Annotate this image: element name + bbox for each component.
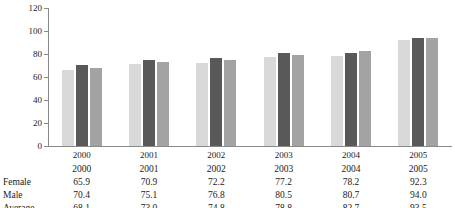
bar-female-2000 (62, 70, 74, 146)
chart-figure: 020406080100120 200020012002200320042005… (0, 0, 455, 208)
bar-male-2005 (412, 38, 424, 146)
bar-average-2004 (359, 51, 371, 146)
table-row-average-cell: 93.5 (388, 202, 448, 208)
bar-average-2003 (292, 55, 304, 146)
table-row-female-cell: 72.2 (186, 176, 246, 189)
table-row-average-label: Average (3, 202, 34, 208)
table-row-average-cell: 82.7 (321, 202, 381, 208)
plot-area: 020406080100120 (0, 0, 455, 150)
table-row-male-cell: 80.5 (254, 189, 314, 202)
table-row-female-cell: 65.9 (52, 176, 112, 189)
table-header-row-cell: 2001 (119, 163, 179, 176)
bar-male-2004 (345, 53, 357, 146)
table-header-row-cell: 2004 (321, 163, 381, 176)
table-row-female: Female65.970.972.277.278.292.3 (0, 176, 455, 189)
table-row-female-cell: 92.3 (388, 176, 448, 189)
bar-female-2005 (398, 40, 410, 146)
bar-female-2004 (331, 56, 343, 146)
bar-average-2001 (157, 62, 169, 146)
x-axis-label-2000: 2000 (57, 150, 107, 161)
table-row-average: Average68.173.074.878.882.793.5 (0, 202, 455, 208)
x-axis-label-2002: 2002 (191, 150, 241, 161)
x-axis-label-2003: 2003 (259, 150, 309, 161)
table-row-female-cell: 70.9 (119, 176, 179, 189)
x-axis-label-2001: 2001 (124, 150, 174, 161)
table-row-female-cell: 77.2 (254, 176, 314, 189)
table-row-male-cell: 94.0 (388, 189, 448, 202)
bar-male-2000 (76, 65, 88, 146)
table-row-average-cell: 68.1 (52, 202, 112, 208)
data-table: 200020012002200320042005Female65.970.972… (0, 163, 455, 208)
bar-female-2001 (129, 64, 141, 146)
table-row-average-cell: 78.8 (254, 202, 314, 208)
table-row-female-label: Female (3, 176, 31, 189)
table-row-male-label: Male (3, 189, 23, 202)
table-row-male-cell: 75.1 (119, 189, 179, 202)
bar-average-2000 (90, 68, 102, 146)
bars-layer (0, 0, 455, 147)
table-row-average-cell: 74.8 (186, 202, 246, 208)
table-header-row-cell: 2003 (254, 163, 314, 176)
table-row-male-cell: 76.8 (186, 189, 246, 202)
table-row-male: Male70.475.176.880.580.794.0 (0, 189, 455, 202)
bar-female-2003 (264, 57, 276, 146)
x-axis-label-2004: 2004 (326, 150, 376, 161)
bar-average-2002 (224, 60, 236, 146)
table-row-male-cell: 70.4 (52, 189, 112, 202)
table-header-row-cell: 2000 (52, 163, 112, 176)
table-row-female-cell: 78.2 (321, 176, 381, 189)
x-axis-labels: 200020012002200320042005 (0, 150, 455, 162)
table-header-row-cell: 2005 (388, 163, 448, 176)
bar-male-2001 (143, 60, 155, 146)
table-row-average-cell: 73.0 (119, 202, 179, 208)
bar-average-2005 (426, 38, 438, 146)
bar-male-2003 (278, 53, 290, 146)
table-row-male-cell: 80.7 (321, 189, 381, 202)
bar-male-2002 (210, 58, 222, 146)
table-header-row: 200020012002200320042005 (0, 163, 455, 176)
x-axis-label-2005: 2005 (393, 150, 443, 161)
table-header-row-cell: 2002 (186, 163, 246, 176)
bar-female-2002 (196, 63, 208, 146)
